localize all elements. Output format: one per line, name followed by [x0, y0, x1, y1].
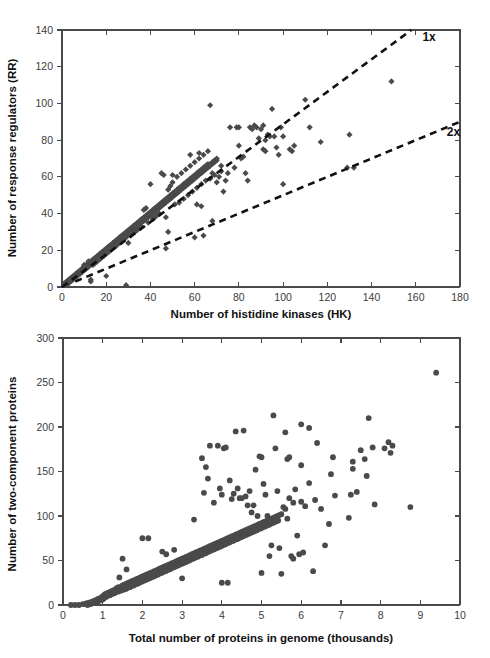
data-point [209, 218, 215, 224]
data-point [171, 547, 177, 553]
annotation-2x: 2x [447, 125, 461, 139]
data-point [318, 506, 324, 512]
x-tick-label: 20 [100, 291, 112, 303]
data-point [382, 445, 388, 451]
x-tick-label: 7 [338, 609, 344, 621]
data-point [233, 429, 239, 435]
data-point [271, 413, 277, 419]
data-point [388, 78, 394, 84]
x-tick-label: 5 [259, 609, 265, 621]
scatter-chart-proteins-twocomponent: 012345678910050100150200250300 Total num… [0, 322, 490, 658]
data-point [124, 567, 130, 573]
data-point [407, 504, 413, 510]
y-tick-label: 100 [36, 510, 54, 522]
data-point [229, 496, 235, 502]
data-point [187, 163, 193, 169]
reference-line-2x [75, 122, 460, 282]
data-point [328, 471, 334, 477]
x-tick-label: 0 [59, 291, 65, 303]
data-point [179, 575, 185, 581]
data-point [165, 229, 171, 235]
data-point [207, 102, 213, 108]
data-point [223, 177, 229, 183]
data-point [300, 550, 306, 556]
data-point [223, 445, 229, 451]
data-point [247, 488, 253, 494]
data-point [225, 580, 231, 586]
data-point [227, 124, 233, 130]
data-point [322, 542, 328, 548]
data-point [145, 535, 151, 541]
data-point [231, 165, 237, 171]
data-point [280, 181, 286, 187]
data-point [314, 440, 320, 446]
data-point [178, 170, 184, 176]
data-point [255, 513, 261, 519]
x-tick-label: 80 [233, 291, 245, 303]
data-point [259, 570, 265, 576]
y-tick-label: 250 [36, 376, 54, 388]
x-tick-label: 3 [179, 609, 185, 621]
data-point [231, 491, 237, 497]
x-tick-label: 1 [100, 609, 106, 621]
data-point [302, 97, 308, 103]
data-point [192, 159, 198, 165]
data-point [249, 510, 255, 516]
figure-container: 0204060801001201401601800204060801001201… [0, 0, 490, 658]
data-point [203, 464, 209, 470]
chart-svg-bottom: 012345678910050100150200250300 Total num… [0, 322, 490, 658]
data-point [282, 506, 288, 512]
data-point [275, 518, 281, 524]
data-point [219, 492, 225, 498]
data-point [306, 480, 312, 486]
data-point [312, 497, 318, 503]
data-point [282, 429, 288, 435]
y-tick-label: 60 [41, 170, 53, 182]
data-point [205, 476, 211, 482]
data-point [280, 133, 286, 139]
x-tick-label: 10 [454, 609, 466, 621]
data-point [263, 492, 269, 498]
data-point [243, 494, 249, 500]
x-tick-label: 60 [189, 291, 201, 303]
data-point [362, 456, 368, 462]
x-tick-label: 2 [139, 609, 145, 621]
y-axis-title-top: Number of response regulators (RR) [6, 58, 18, 257]
data-point [372, 502, 378, 508]
y-tick-label: 120 [35, 60, 53, 72]
data-point [291, 143, 297, 149]
data-point [348, 492, 354, 498]
data-point [245, 177, 251, 183]
data-point [276, 545, 282, 551]
data-point [318, 139, 324, 145]
data-point [358, 447, 364, 453]
data-point [274, 488, 280, 494]
data-point [298, 462, 304, 468]
data-point [330, 454, 336, 460]
data-point [298, 421, 304, 427]
y-tick-label: 80 [41, 134, 53, 146]
data-point [269, 542, 275, 548]
data-point [191, 517, 197, 523]
plot-frame-bottom [58, 338, 460, 605]
data-point [163, 214, 169, 220]
data-point [276, 152, 282, 158]
y-tick-label: 0 [48, 599, 54, 611]
data-point [116, 575, 122, 581]
data-point [267, 553, 273, 559]
y-tick-label: 100 [35, 97, 53, 109]
data-point [364, 473, 370, 479]
x-tick-label: 100 [274, 291, 292, 303]
data-point [294, 533, 300, 539]
data-point [187, 152, 193, 158]
data-point [346, 132, 352, 138]
data-point [298, 499, 304, 505]
data-point [253, 467, 259, 473]
data-point [220, 188, 226, 194]
data-point [183, 166, 189, 172]
data-point [292, 486, 298, 492]
data-point [256, 135, 262, 141]
data-point [214, 179, 220, 185]
y-tick-label: 150 [36, 465, 54, 477]
data-point [236, 143, 242, 149]
